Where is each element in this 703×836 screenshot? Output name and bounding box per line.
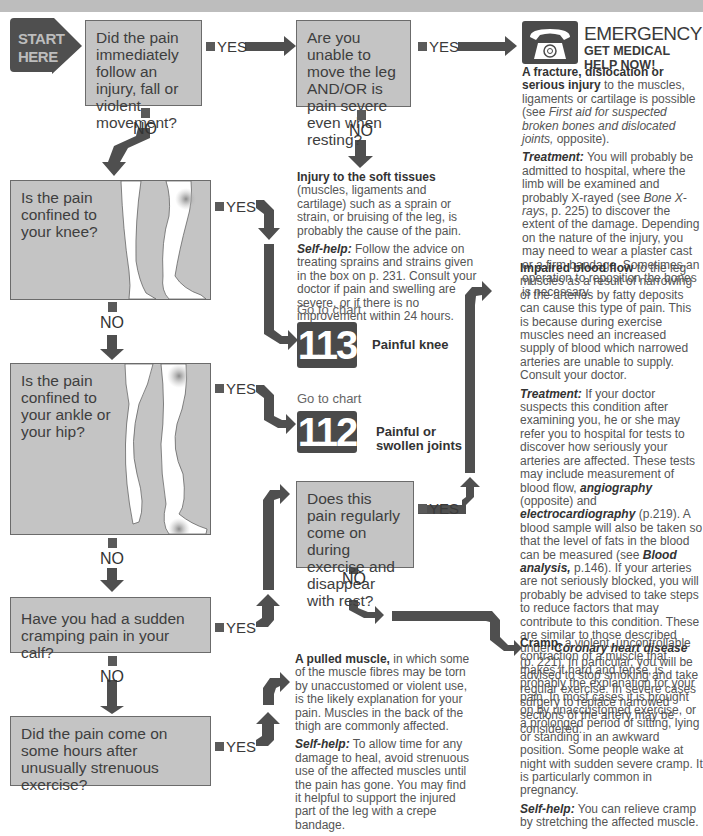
question-knee-box[interactable]: Is the pain confined to your knee? (10, 180, 211, 300)
start-label-1: START (18, 31, 64, 47)
question-knee-text: Is the pain confined to your knee? (21, 189, 111, 240)
no-label-q2: NO (346, 110, 376, 140)
chart-112-name: Painful or swollen joints (376, 425, 466, 453)
no-label-q1: NO (130, 108, 160, 138)
no-label-q6: NO (97, 656, 127, 686)
no-label-q4: NO (97, 538, 127, 568)
question-unable-move-box[interactable]: Are you unable to move the leg AND/OR is… (296, 20, 411, 107)
chart-113-name: Painful knee (372, 338, 449, 352)
question-strenuous-box[interactable]: Did the pain come on some hours after un… (10, 716, 211, 786)
pulled-muscle-text: A pulled muscle, in which some of the mu… (295, 653, 475, 836)
yes-label-q3: YES (215, 198, 256, 215)
yes-label-q2: YES (418, 38, 459, 55)
chart-112-button[interactable]: 112 (297, 411, 357, 453)
cramp-text: Cramp, a violent, uncontrollable contrac… (520, 637, 703, 835)
yes-label-q1: YES (206, 38, 247, 55)
yes-label-q4: YES (215, 380, 256, 397)
emergency-title: EMERGENCY (584, 23, 702, 45)
start-here-arrow: START HERE (10, 18, 82, 78)
question-cramp-text: Have you had a sudden cramping pain in y… (21, 610, 200, 661)
telephone-icon (522, 21, 578, 64)
question-cramp-box[interactable]: Have you had a sudden cramping pain in y… (10, 597, 211, 653)
chart-113-button[interactable]: 113 (297, 322, 357, 368)
start-label-2: HERE (18, 49, 58, 65)
yes-label-q5: YES (418, 500, 459, 517)
go-to-chart-label-113: Go to chart (297, 302, 361, 317)
no-label-q3: NO (97, 302, 127, 332)
go-to-chart-label-112: Go to chart (297, 391, 361, 406)
no-label-q5: NO (339, 570, 369, 588)
question-exercise-box[interactable]: Does this pain regularly come on during … (296, 481, 414, 568)
yes-label-q7: YES (215, 738, 256, 755)
yes-label-q6: YES (215, 619, 256, 636)
question-ankle-hip-box[interactable]: Is the pain confined to your ankle or yo… (10, 363, 211, 535)
question-strenuous-text: Did the pain come on some hours after un… (21, 725, 167, 793)
question-injury-box[interactable]: Did the pain immediately follow an injur… (85, 20, 202, 106)
question-ankle-hip-text: Is the pain confined to your ankle or yo… (21, 372, 131, 440)
